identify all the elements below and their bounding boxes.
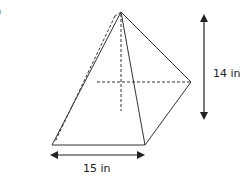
pyramid-diagram: ) 14 in 15 in: [0, 0, 244, 179]
base-label: 15 in: [83, 162, 111, 175]
question-marker: ): [0, 5, 1, 18]
pyramid-hidden-edges: [55, 12, 191, 142]
height-label: 14 in: [213, 67, 241, 80]
pyramid-figure: ) 14 in 15 in: [0, 0, 244, 179]
